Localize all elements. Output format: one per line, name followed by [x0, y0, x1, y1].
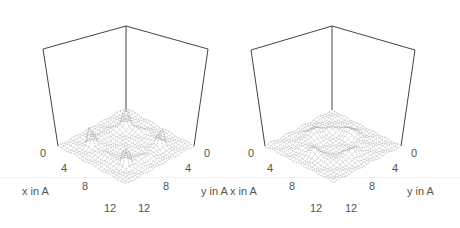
x-tick: 0: [248, 147, 254, 159]
y-tick: 12: [138, 202, 150, 214]
y-tick: 0: [411, 147, 417, 159]
y-tick: 8: [163, 180, 169, 192]
y-tick: 4: [185, 162, 191, 174]
x-tick: 12: [104, 202, 116, 214]
x-axis-label: x in A: [230, 185, 258, 197]
bounding-box: [43, 26, 208, 146]
surface-plot-left-svg: 0 4 8 12 0 4 8 12 x in A y in A: [0, 0, 230, 228]
surface-plot-right: 0 4 8 12 0 4 8 12 x in A y in A: [230, 0, 460, 228]
x-tick: 8: [289, 180, 295, 192]
y-axis-label: y in A: [201, 185, 229, 197]
wireframe-surface: [58, 109, 194, 184]
y-tick: 12: [345, 202, 357, 214]
x-tick: 0: [40, 147, 46, 159]
x-tick: 4: [267, 162, 273, 174]
surface-plot-right-svg: 0 4 8 12 0 4 8 12 x in A y in A: [230, 0, 460, 228]
surface-plot-left: 0 4 8 12 0 4 8 12 x in A y in A: [0, 0, 230, 228]
y-tick: 8: [369, 180, 375, 192]
x-tick: 8: [82, 180, 88, 192]
y-tick: 0: [204, 147, 210, 159]
x-tick: 12: [310, 202, 322, 214]
x-axis-label: x in A: [22, 185, 50, 197]
y-tick: 4: [392, 162, 398, 174]
y-axis-label: y in A: [407, 185, 435, 197]
bounding-box: [251, 26, 415, 146]
wireframe-surface: [265, 109, 401, 182]
x-tick: 4: [61, 162, 67, 174]
x-axis-ticks: 0 4 8 12: [248, 147, 322, 214]
